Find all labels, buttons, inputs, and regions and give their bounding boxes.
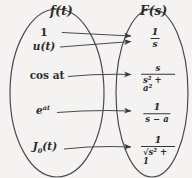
one-over-s-denominator: s xyxy=(150,38,159,49)
domain-set-title: f(t) xyxy=(50,5,73,17)
codomain-set-title: F(s) xyxy=(140,5,167,17)
domain-item-exponential: eat xyxy=(36,105,50,116)
codomain-item-cosine-transform: s s² + a² xyxy=(141,64,175,93)
cosine-transform-denominator: s² + a² xyxy=(141,73,175,92)
bessel-transform-numerator: 1 xyxy=(153,135,164,146)
domain-item-unit-constant: 1 xyxy=(40,27,47,38)
bessel-transform-denominator: √s² + 1 xyxy=(141,146,175,165)
domain-item-cosine: cos at xyxy=(30,70,65,81)
cosine-transform-numerator: s xyxy=(154,64,163,74)
codomain-item-one-over-s: 1 s xyxy=(150,27,161,49)
arrow-unit-constant xyxy=(62,33,131,37)
domain-item-unit-step: u(t) xyxy=(33,41,55,52)
one-over-s-numerator: 1 xyxy=(150,27,161,38)
arrow-cosine xyxy=(68,74,131,76)
arrow-bessel-j0 xyxy=(64,147,131,149)
bessel-argument: (t) xyxy=(42,140,57,152)
exponential-transform-numerator: 1 xyxy=(152,102,163,113)
arrow-exponential xyxy=(57,111,131,113)
laplace-transform-mapping-diagram: f(t) F(s) 1 u(t) cos at eat J0(t) 1 s s … xyxy=(0,0,192,178)
exponential-exponent: at xyxy=(43,104,50,112)
exponential-transform-denominator: s − a xyxy=(143,113,170,124)
domain-item-bessel-j0: J0(t) xyxy=(33,141,57,155)
codomain-item-exponential-transform: 1 s − a xyxy=(143,102,170,124)
exponential-base: e xyxy=(36,104,43,116)
codomain-item-bessel-transform: 1 √s² + 1 xyxy=(141,135,175,165)
